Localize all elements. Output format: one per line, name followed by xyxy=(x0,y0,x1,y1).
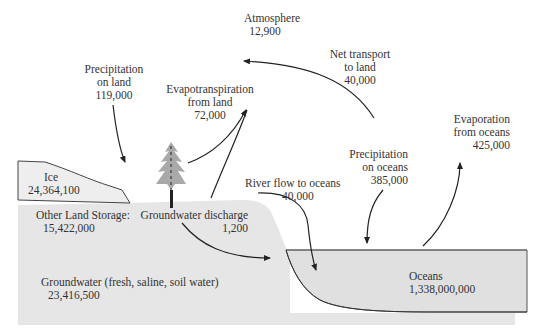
precip-oceans-label: Precipitation on oceans 385,000 xyxy=(330,148,408,187)
precip-land-line1: Precipitation xyxy=(76,63,152,76)
net-transport-label: Net transport to land 40,000 xyxy=(320,48,400,87)
ice-name: Ice xyxy=(28,171,80,184)
oceans-label: Oceans 1,338,000,000 xyxy=(409,270,475,296)
precip-oceans-value: 385,000 xyxy=(330,174,408,187)
ice-label: Ice 24,364,100 xyxy=(28,171,80,197)
net-transport-value: 40,000 xyxy=(320,74,400,87)
precip-land-arrow xyxy=(113,105,125,162)
precip-land-label: Precipitation on land 119,000 xyxy=(76,63,152,102)
ocean-body xyxy=(286,250,527,312)
precip-oceans-line1: Precipitation xyxy=(330,148,408,161)
groundwater-discharge-value: 1,200 xyxy=(140,222,248,235)
precip-land-line2: on land xyxy=(76,76,152,89)
water-cycle-diagram: Atmosphere 12,900 Precipitation on land … xyxy=(0,0,541,334)
evapotranspiration-line2: from land xyxy=(160,96,260,109)
oceans-value: 1,338,000,000 xyxy=(409,283,475,296)
evapotranspiration-label: Evapotranspiration from land 72,000 xyxy=(160,83,260,122)
tree-icon xyxy=(156,142,186,208)
other-land-name: Other Land Storage: xyxy=(36,209,130,222)
other-land-storage-label: Other Land Storage: 15,422,000 xyxy=(36,209,130,235)
atmosphere-name: Atmosphere xyxy=(232,12,312,25)
groundwater-name: Groundwater (fresh, saline, soil water) xyxy=(41,276,219,289)
ice-value: 24,364,100 xyxy=(28,184,80,197)
groundwater-label: Groundwater (fresh, saline, soil water) … xyxy=(41,276,219,302)
river-flow-value: 40,000 xyxy=(245,190,341,203)
net-transport-line1: Net transport xyxy=(320,48,400,61)
evapotranspiration-value: 72,000 xyxy=(160,109,260,122)
evapotranspiration-line1: Evapotranspiration xyxy=(160,83,260,96)
atmosphere-label: Atmosphere 12,900 xyxy=(232,12,312,38)
groundwater-discharge-line1: Groundwater discharge xyxy=(140,209,248,222)
oceans-name: Oceans xyxy=(409,270,475,283)
precip-oceans-line2: on oceans xyxy=(330,161,408,174)
groundwater-discharge-label: Groundwater discharge 1,200 xyxy=(140,209,248,235)
river-flow-line1: River flow to oceans xyxy=(245,177,341,190)
net-transport-line2: to land xyxy=(320,61,400,74)
other-land-value: 15,422,000 xyxy=(36,222,130,235)
precip-land-value: 119,000 xyxy=(76,89,152,102)
river-flow-label: River flow to oceans 40,000 xyxy=(245,177,341,203)
evapotranspiration-arrow-ground xyxy=(211,110,247,198)
groundwater-value: 23,416,500 xyxy=(41,289,219,302)
evap-oceans-label: Evaporation from oceans 425,000 xyxy=(420,113,510,152)
evap-oceans-line1: Evaporation xyxy=(420,113,510,126)
atmosphere-value: 12,900 xyxy=(218,25,312,38)
precip-oceans-arrow xyxy=(367,190,383,243)
evap-oceans-line2: from oceans xyxy=(420,126,510,139)
evap-oceans-arrow xyxy=(423,163,460,246)
evap-oceans-value: 425,000 xyxy=(420,139,510,152)
